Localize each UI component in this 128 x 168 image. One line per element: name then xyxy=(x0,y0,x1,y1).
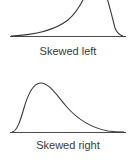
skewed-left-diagram: Skewed left xyxy=(0,0,128,62)
skewed-right-diagram: Skewed right xyxy=(0,70,128,168)
skewed-left-curve-icon xyxy=(0,0,128,44)
skewed-left-rising-tail xyxy=(11,0,84,36)
skewed-right-curve-icon xyxy=(0,70,128,136)
skewed-left-falling-edge xyxy=(107,0,123,36)
skewed-right-curve xyxy=(12,83,124,132)
skewed-left-label: Skewed left xyxy=(4,45,128,57)
skewed-right-label: Skewed right xyxy=(4,139,128,151)
